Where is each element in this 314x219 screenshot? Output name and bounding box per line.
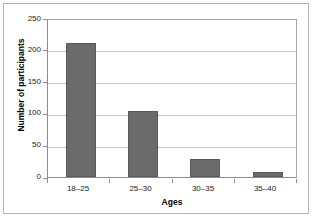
x-tick-mark bbox=[296, 179, 297, 183]
plot-area bbox=[47, 19, 297, 178]
x-tick-mark bbox=[172, 179, 173, 183]
bar-35-40 bbox=[253, 172, 283, 177]
x-tick-label-30-35: 30–35 bbox=[172, 184, 234, 193]
x-tick-mark bbox=[109, 179, 110, 183]
x-tick-mark bbox=[234, 179, 235, 183]
bar-30-35 bbox=[190, 159, 220, 177]
y-axis-title: Number of participants bbox=[16, 10, 26, 160]
bar-18-25 bbox=[66, 43, 96, 177]
y-tick-label: 0 bbox=[15, 173, 41, 181]
x-tick-label-35-40: 35–40 bbox=[234, 184, 296, 193]
x-tick-label-25-30: 25–30 bbox=[109, 184, 172, 193]
x-tick-mark bbox=[47, 179, 48, 183]
x-tick-label-18-25: 18–25 bbox=[47, 184, 109, 193]
chart-figure: 250 200 150 100 50 0 18–25 25–30 30–35 3… bbox=[0, 0, 314, 219]
bar-25-30 bbox=[128, 111, 158, 177]
x-axis-title: Ages bbox=[47, 197, 297, 207]
